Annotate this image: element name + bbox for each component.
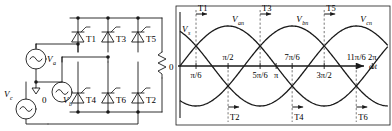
- tick-label-below: 3π/2: [317, 70, 332, 80]
- waveform-plot: [176, 6, 390, 125]
- source-va-sub: a: [53, 60, 56, 66]
- source-va: [26, 44, 46, 82]
- series-labels: VanVbnVcn: [232, 14, 372, 26]
- thyristor-t1-label: T1: [86, 34, 96, 44]
- phase-b-wire: [62, 57, 108, 62]
- series-label-sub-an: an: [238, 20, 244, 26]
- tick-label-below: π: [274, 70, 279, 80]
- thyristor-t3-label: T3: [116, 34, 126, 44]
- tick-label-below: 5π/6: [253, 70, 268, 80]
- series-label-sub-cn: cn: [366, 20, 372, 26]
- x-tick-labels-below: π/65π/6π3π/2: [191, 70, 332, 80]
- figure-canvas: V a V b V c 0 T1 T3 T5 T4 T6 T2 V s 0 ωt…: [0, 0, 392, 131]
- firing-label-T4: T4: [294, 112, 304, 122]
- load-resistor: [158, 52, 166, 78]
- tick-label-above: 11π/6: [347, 52, 366, 62]
- y-axis-label-sub: s: [188, 30, 191, 36]
- firing-label-T2: T2: [230, 112, 239, 122]
- phase-c-wire: [48, 112, 138, 124]
- neutral-node: [34, 80, 38, 84]
- origin-label: 0: [169, 62, 174, 72]
- firing-label-T5: T5: [326, 3, 335, 13]
- thyristor-t5-label: T5: [146, 34, 156, 44]
- circuit-diagram: [16, 16, 166, 124]
- figure-root: V a V b V c 0 T1 T3 T5 T4 T6 T2 V s 0 ωt…: [0, 0, 392, 131]
- thyristor-t6-label: T6: [116, 95, 126, 105]
- source-vc-sub: c: [10, 95, 13, 101]
- tick-label-above: 7π/6: [285, 52, 300, 62]
- tick-label-above: 2π: [368, 52, 377, 62]
- neutral-label: 0: [42, 95, 47, 105]
- series-label-sub-bn: bn: [302, 20, 308, 26]
- firing-label-T6: T6: [358, 112, 367, 122]
- thyristor-t4-label: T4: [86, 95, 96, 105]
- x-tick-labels-above: π/27π/611π/62π: [223, 52, 378, 62]
- firing-labels-top: T1T3T5: [198, 3, 336, 13]
- firing-label-T1: T1: [198, 3, 207, 13]
- x-axis-label: ωt: [369, 62, 378, 71]
- phase-a-wire: [36, 44, 78, 48]
- thyristor-t2-label: T2: [146, 95, 156, 105]
- firing-label-T3: T3: [262, 3, 271, 13]
- tick-label-below: π/6: [191, 70, 202, 80]
- tick-label-above: π/2: [223, 52, 234, 62]
- neutral-ground-symbol: [32, 82, 40, 94]
- firing-labels-bottom: T2T4T6: [230, 112, 368, 122]
- source-vb-sub: b: [69, 101, 72, 107]
